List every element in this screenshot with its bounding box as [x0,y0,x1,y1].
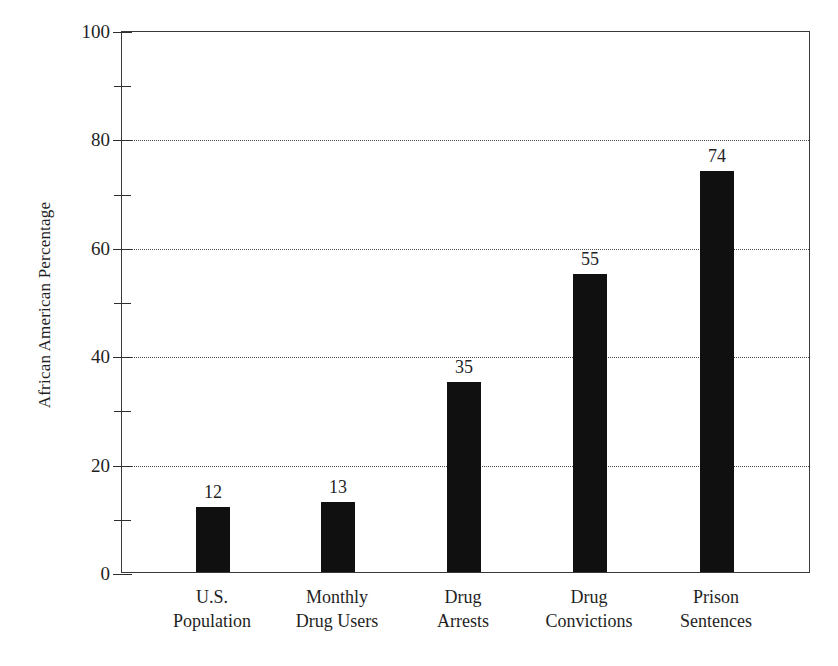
bar-value-label: 55 [581,249,599,270]
y-tick-minor-70 [114,195,131,196]
y-tick-minor-90 [114,86,131,87]
category-label-line2: Sentences [626,610,806,634]
gridline-80 [122,140,809,141]
bar-value-label: 13 [329,477,347,498]
bar: 74 [700,171,734,572]
y-tick-major-0 [113,574,132,575]
y-tick-minor-30 [114,411,131,412]
bar-chart: African American Percentage 020406080100… [0,0,838,666]
bar: 35 [447,382,481,572]
y-tick-minor-50 [114,303,131,304]
bar-value-label: 12 [204,482,222,503]
y-tick-label-60: 60 [91,238,110,260]
y-tick-major-60 [113,249,132,250]
y-axis-title: African American Percentage [35,145,55,465]
y-tick-major-80 [113,140,132,141]
bar: 55 [573,274,607,572]
bar-value-label: 35 [455,357,473,378]
category-label: PrisonSentences [626,586,806,634]
category-label-line1: Prison [626,586,806,610]
y-tick-label-80: 80 [91,129,110,151]
y-tick-label-100: 100 [82,21,111,43]
bar-value-label: 74 [708,146,726,167]
bar: 12 [196,507,230,572]
y-tick-major-100 [113,32,132,33]
y-tick-label-20: 20 [91,455,110,477]
y-tick-label-40: 40 [91,346,110,368]
y-tick-minor-10 [114,520,131,521]
y-tick-label-0: 0 [101,563,111,585]
plot-area: 020406080100 1213355574 [121,31,810,573]
bar: 13 [321,502,355,572]
y-tick-major-20 [113,466,132,467]
y-tick-major-40 [113,357,132,358]
